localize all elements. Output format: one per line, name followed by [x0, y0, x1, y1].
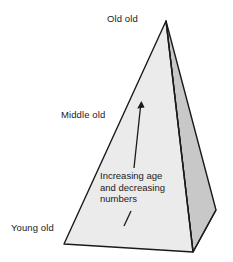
- label-young-old: Young old: [11, 222, 54, 234]
- label-middle-old: Middle old: [61, 109, 105, 121]
- annotation-line-1: Increasing age: [100, 170, 186, 182]
- label-old-old: Old old: [107, 13, 138, 25]
- annotation-caption: Increasing age and decreasing numbers: [100, 170, 186, 205]
- annotation-line-2: and decreasing: [100, 182, 186, 194]
- annotation-line-3: numbers: [100, 193, 186, 205]
